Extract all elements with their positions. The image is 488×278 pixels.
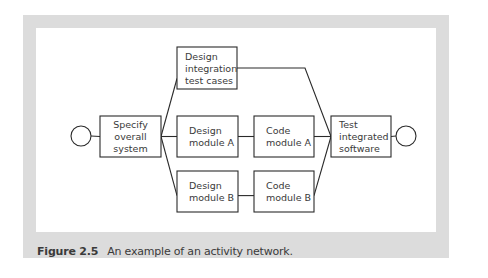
activity-test: Testintegratedsoftware	[331, 116, 391, 157]
activity-label-line: integrated	[339, 131, 389, 142]
edge-start-to-specify	[91, 136, 100, 137]
figure-label: Figure 2.5	[37, 245, 98, 258]
activity-label-line: integration	[185, 63, 237, 74]
activity-label-line: software	[339, 143, 380, 154]
activity-label-line: overall	[114, 131, 146, 142]
edge-code-b-to-test	[314, 137, 331, 196]
activity-label-line: Design	[185, 51, 218, 62]
activity-label-line: Design	[189, 125, 222, 136]
activity-label-line: Code	[266, 125, 290, 136]
start-event	[71, 126, 91, 146]
figure-caption: Figure 2.5An example of an activity netw…	[37, 245, 293, 258]
activity-label-line: Code	[266, 180, 290, 191]
activity-label-line: Test	[338, 119, 358, 130]
activity-label-line: Design	[189, 180, 222, 191]
activity-label-line: Specify	[113, 119, 148, 130]
activity-label-line: system	[113, 143, 147, 154]
end-event	[396, 126, 416, 146]
edge-test-to-end	[391, 136, 396, 137]
activity-specify: Specifyoverallsystem	[100, 116, 161, 157]
activity-label-line: module B	[266, 192, 311, 203]
activity-label-line: module A	[189, 137, 235, 148]
activity-label-line: module B	[189, 192, 234, 203]
activity-label-line: test cases	[185, 75, 233, 86]
figure-caption-text: An example of an activity network.	[107, 245, 293, 258]
activity-code-a: Codemodule A	[254, 116, 314, 157]
activity-design-int: Designintegrationtest cases	[177, 47, 237, 89]
activity-network: SpecifyoverallsystemDesignintegrationtes…	[0, 0, 488, 278]
activity-label-line: module A	[266, 137, 312, 148]
activity-design-b: Designmodule B	[177, 171, 238, 212]
edge-specify-to-design-int	[161, 79, 177, 137]
activity-design-a: Designmodule A	[177, 116, 238, 157]
edge-specify-to-design-b	[161, 137, 177, 196]
activity-code-b: Codemodule B	[254, 171, 314, 212]
